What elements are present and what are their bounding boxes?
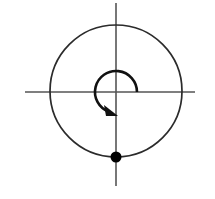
diagram-svg xyxy=(0,0,215,199)
point-mass-dot xyxy=(111,152,122,163)
diagram-canvas xyxy=(0,0,215,199)
canvas-background xyxy=(0,0,215,199)
